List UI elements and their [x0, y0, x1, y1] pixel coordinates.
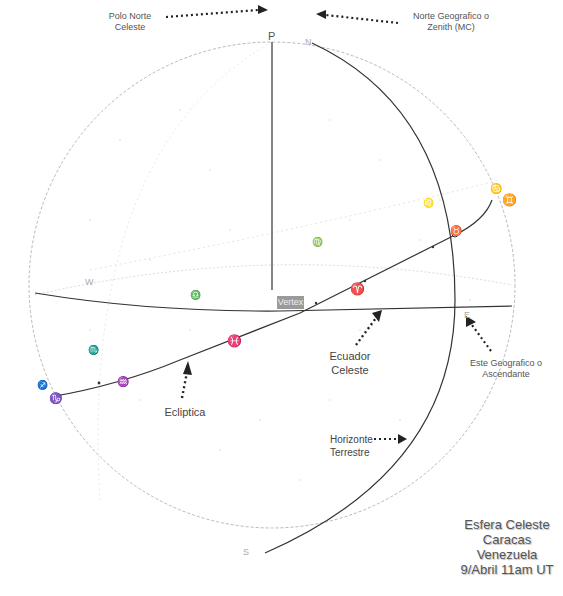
- polo-norte-line1: Polo Norte: [100, 11, 160, 22]
- este-geografico-line2: Ascendante: [456, 369, 556, 380]
- polo-norte-celeste-label: Polo Norte Celeste: [100, 11, 160, 33]
- point-w-label: W: [85, 277, 94, 287]
- leo-icon: ♌: [423, 198, 434, 208]
- libra-icon: ♎: [190, 290, 201, 300]
- polo-norte-line2: Celeste: [100, 22, 160, 33]
- faint-equator-back: [90, 180, 500, 270]
- horizonte-terrestre-label: Horizonte Terrestre: [330, 433, 382, 459]
- point-e-label: E: [464, 310, 470, 320]
- arrow-polo-norte: [166, 5, 268, 17]
- pisces-icon: ♓: [227, 335, 242, 347]
- faint-meridian-left: [98, 42, 272, 500]
- horizonte-line2: Terrestre: [330, 446, 382, 459]
- title-line-2: Caracas: [452, 532, 562, 547]
- sagittarius-icon: ♐: [37, 380, 48, 390]
- celestial-equator-line: [35, 293, 512, 311]
- title-line-1: Esfera Celeste: [452, 517, 562, 532]
- norte-geografico-line2: Zenith (MC): [396, 22, 506, 33]
- este-geografico-line1: Este Geografico o: [456, 358, 556, 369]
- aquarius-icon: ♒: [117, 376, 129, 388]
- arrow-norte-geografico: [316, 10, 398, 23]
- taurus-icon: ♉: [450, 225, 462, 237]
- norte-geografico-line1: Norte Geografico o: [396, 11, 506, 22]
- horizon-plane-back: [35, 265, 512, 295]
- title-line-4: 9/Abril 11am UT: [452, 562, 562, 577]
- ecuador-celeste-label: Ecuador Celeste: [320, 349, 380, 377]
- aries-icon: ♈: [350, 283, 365, 295]
- arrow-ecuador-celeste: [356, 310, 382, 345]
- ecliptica-line1: Ecliptica: [155, 405, 215, 419]
- scorpio-icon: ♏: [88, 344, 99, 356]
- title-block: Esfera Celeste Caracas Venezuela 9/Abril…: [452, 517, 562, 577]
- virgo-icon: ♍: [312, 237, 323, 247]
- horizonte-line1: Horizonte: [330, 433, 382, 446]
- gemini-icon: ♊: [502, 194, 517, 206]
- speckle-texture: [89, 109, 471, 481]
- capricorn-icon: ♑: [49, 392, 63, 404]
- vertex-label: Vertex: [277, 296, 304, 309]
- title-line-3: Venezuela: [452, 547, 562, 562]
- cancer-icon: ♋: [490, 183, 502, 195]
- arrow-este-geografico: [466, 316, 491, 351]
- point-p-label: P: [268, 30, 275, 42]
- ecliptica-label: Ecliptica: [155, 405, 215, 419]
- este-geografico-label: Este Geografico o Ascendante: [456, 358, 556, 380]
- ecuador-line2: Celeste: [320, 363, 380, 377]
- ecliptic-line: [50, 200, 492, 397]
- norte-geografico-label: Norte Geografico o Zenith (MC): [396, 11, 506, 33]
- point-n-label: N: [305, 37, 312, 47]
- arrow-ecliptica: [182, 361, 192, 398]
- point-s-label: S: [243, 547, 249, 557]
- ecuador-line1: Ecuador: [320, 349, 380, 363]
